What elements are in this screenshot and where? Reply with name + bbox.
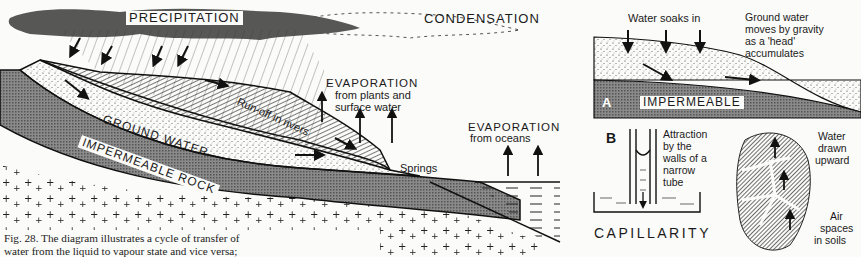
caption-line-2: water from the liquid to vapour state an…: [4, 245, 364, 257]
springs-label: Springs: [400, 163, 437, 175]
air-spaces-line-1: Air: [830, 211, 843, 222]
attraction-line-4: narrow: [663, 165, 695, 176]
inset-a-letter: A: [602, 96, 611, 110]
attraction-line-5: tube: [663, 177, 683, 188]
precipitation-label: PRECIPITATION: [126, 11, 243, 25]
air-spaces-line-2: spaces: [820, 223, 853, 234]
ground-water-note-3: as a 'head': [745, 36, 795, 47]
evap-plants-title: EVAPORATION: [326, 77, 418, 89]
ground-water-note-2: moves by gravity: [745, 24, 824, 35]
caption-line-1: Fig. 28. The diagram illustrates a cycle…: [4, 232, 364, 245]
condensation-label: CONDENSATION: [424, 12, 540, 26]
water-drawn-line-2: drawn: [818, 143, 847, 154]
evap-plants-sub1: from plants and: [335, 90, 411, 102]
evap-plants-sub2: surface water: [335, 102, 401, 114]
ground-water-note-4: accumulates: [745, 48, 804, 59]
evap-oceans-sub: from oceans: [470, 133, 531, 145]
inset-b-letter: B: [606, 131, 616, 146]
inset-a-impermeable-label: IMPERMEABLE: [640, 96, 744, 109]
attraction-line-3: walls of a: [663, 153, 707, 164]
capillarity-label: CAPILLARITY: [594, 226, 711, 241]
attraction-line-2: by the: [663, 141, 692, 152]
water-drawn-line-1: Water: [818, 131, 846, 142]
figure-caption: Fig. 28. The diagram illustrates a cycle…: [4, 232, 364, 257]
water-drawn-line-3: upward: [815, 155, 849, 166]
attraction-line-1: Attraction: [663, 129, 707, 140]
water-soaks-in-label: Water soaks in: [628, 13, 700, 25]
ground-water-note-1: Ground water: [745, 12, 809, 23]
air-spaces-line-3: in soils: [814, 235, 846, 246]
